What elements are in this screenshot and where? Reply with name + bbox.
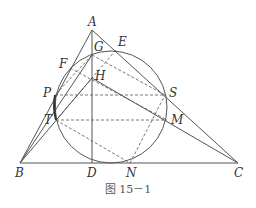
label-A: A bbox=[87, 15, 97, 29]
point-labels: ABCDNGEFHPSTM bbox=[14, 15, 243, 180]
dashed-segment-FM bbox=[70, 68, 167, 120]
dashed-segment-NS bbox=[130, 95, 165, 163]
label-P: P bbox=[42, 86, 52, 100]
segment-AC bbox=[92, 30, 238, 163]
label-M: M bbox=[170, 113, 184, 127]
geometry-figure: ABCDNGEFHPSTM 图 15－1 bbox=[0, 0, 256, 208]
label-D: D bbox=[86, 166, 97, 180]
label-H: H bbox=[94, 69, 106, 83]
label-G: G bbox=[94, 40, 104, 54]
label-F: F bbox=[58, 57, 68, 71]
label-C: C bbox=[234, 166, 243, 180]
figure-caption: 图 15－1 bbox=[105, 183, 152, 196]
solid-lines bbox=[20, 30, 238, 163]
segment-BH bbox=[20, 78, 92, 163]
label-S: S bbox=[169, 86, 177, 100]
label-B: B bbox=[14, 166, 24, 180]
label-T: T bbox=[44, 113, 53, 127]
label-E: E bbox=[117, 35, 127, 49]
label-N: N bbox=[125, 166, 137, 180]
